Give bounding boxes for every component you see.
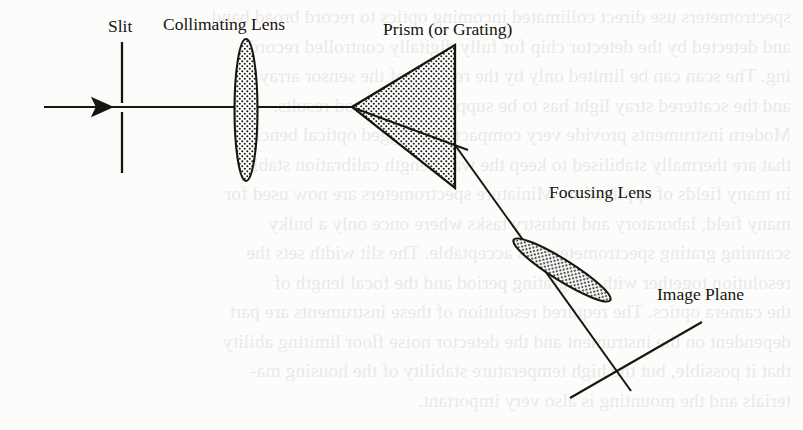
label-prism: Prism (or Grating) [383, 21, 512, 39]
label-image-plane: Image Plane [657, 286, 744, 304]
scanned-page-background: spectrometers use direct collimated inco… [0, 0, 803, 430]
label-collimating-lens: Collimating Lens [163, 16, 285, 34]
triangle-prism-icon [352, 45, 468, 188]
optical-diagram: Slit Collimating Lens Prism (or Grating)… [0, 0, 803, 430]
biconvex-lens-icon-collimating [235, 39, 258, 181]
label-slit: Slit [108, 18, 132, 36]
biconvex-lens-icon-focusing [508, 231, 616, 309]
label-focusing-lens: Focusing Lens [549, 184, 652, 202]
optical-diagram-svg [0, 0, 803, 430]
